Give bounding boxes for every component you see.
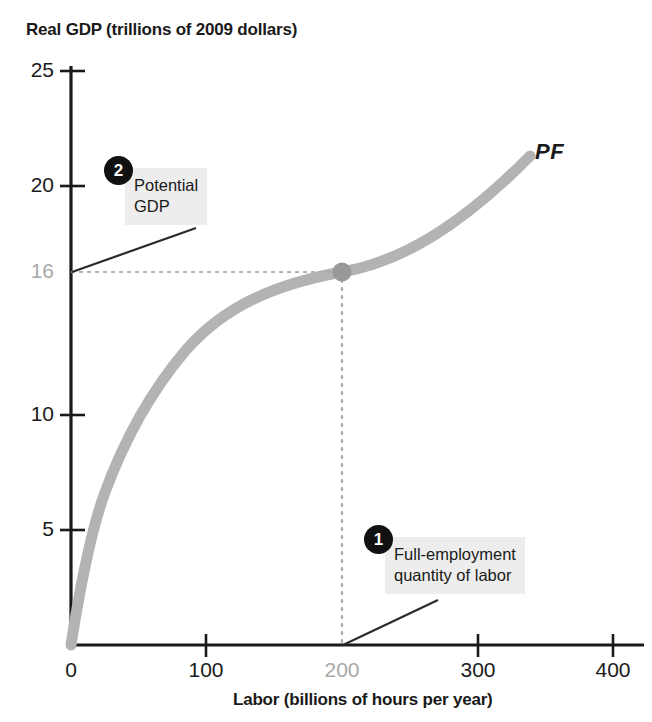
y-tick-label-10: 10 — [8, 402, 54, 426]
production-function-figure: Real GDP (trillions of 2009 dollars) — [0, 0, 652, 722]
full-employment-point-marker — [333, 263, 352, 282]
x-tick-label-300: 300 — [448, 658, 508, 682]
x-tick-label-100: 100 — [176, 658, 236, 682]
pf-curve-label: PF — [535, 139, 564, 165]
y-tick-label-20: 20 — [8, 173, 54, 197]
x-tick-label-400: 400 — [583, 658, 643, 682]
annotation-badge-1: 1 — [364, 525, 393, 554]
annotation-badge-2: 2 — [104, 156, 133, 185]
x-axis-title: Labor (billions of hours per year) — [233, 690, 493, 710]
annotation-potential-gdp: Potential GDP — [125, 168, 207, 225]
y-tick-label-25: 25 — [8, 58, 54, 82]
x-tick-label-0: 0 — [41, 658, 101, 682]
full-employment-leader-line — [343, 600, 438, 645]
y-tick-label-16: 16 — [8, 259, 54, 283]
x-tick-label-200: 200 — [312, 658, 372, 682]
annotation-full-employment: Full-employment quantity of labor — [385, 537, 525, 594]
chart-plot-area — [0, 0, 652, 722]
potential-gdp-leader-line — [72, 228, 196, 272]
y-tick-label-5: 5 — [8, 517, 54, 541]
